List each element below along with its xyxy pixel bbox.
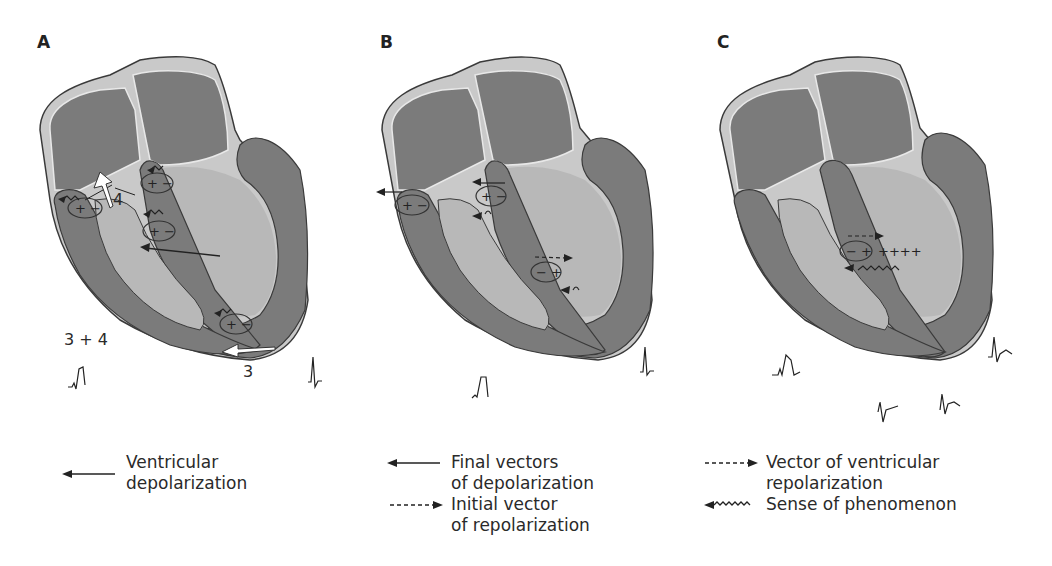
legend-item-ventricular-depolarization: Ventricular depolarization <box>60 452 247 494</box>
wavy-arrow-left-icon <box>700 494 760 515</box>
legend-text-line-2: of repolarization <box>451 515 594 536</box>
heart-diagram-c: − + ++++ <box>700 0 1052 430</box>
ecg-trace-b-right <box>640 347 654 375</box>
heart-diagram-b: + − + − − + <box>340 0 710 430</box>
legend-text-line-2: depolarization <box>126 473 247 494</box>
annotation-3: 3 <box>243 362 253 381</box>
ecg-trace-c-left <box>772 355 800 375</box>
legend-text-line-1: Ventricular <box>126 452 247 473</box>
charges-text: ++++ <box>878 244 922 259</box>
panel-b: B + − + − − + <box>340 0 710 430</box>
legend-c: Vector of ventricular repolarization Sen… <box>700 452 957 515</box>
legend-text-line-1: Sense of phenomenon <box>766 494 957 515</box>
ecg-trace-c-right <box>988 337 1012 362</box>
legend-item-final-vectors: Final vectors of depolarization <box>385 452 594 494</box>
solid-arrow-left-icon <box>60 452 120 494</box>
dashed-arrow-right-icon <box>700 452 760 473</box>
panel-c: C − + ++++ <box>700 0 1052 430</box>
annotation-3-plus-4: 3 + 4 <box>64 330 108 349</box>
ecg-trace-b-bottom <box>472 377 488 398</box>
svg-text:− +: − + <box>846 244 872 259</box>
legend-a: Ventricular depolarization <box>60 452 247 494</box>
legend-item-initial-vector: Initial vector of repolarization <box>385 494 594 536</box>
svg-text:+ −: + − <box>226 317 252 332</box>
svg-text:+ −: + − <box>481 189 507 204</box>
legend-item-vector-ventricular-repolarization: Vector of ventricular repolarization <box>700 452 957 494</box>
legend-b: Final vectors of depolarization Initial … <box>385 452 594 536</box>
heart-diagram-a: + − + − + − + − <box>0 0 350 430</box>
legend-text-line-1: Final vectors <box>451 452 594 473</box>
svg-text:+ −: + − <box>149 224 175 239</box>
legend-text-line-1: Initial vector <box>451 494 594 515</box>
legend-text-line-1: Vector of ventricular <box>766 452 957 473</box>
ecg-trace-c-bottom-left <box>878 402 898 422</box>
svg-text:+ −: + − <box>75 201 101 216</box>
svg-text:+ −: + − <box>147 176 173 191</box>
ecg-trace-a-right <box>308 357 322 387</box>
svg-text:− +: − + <box>536 265 562 280</box>
panel-a: A + − + − + − + − <box>0 0 350 430</box>
dashed-arrow-right-icon <box>385 494 445 515</box>
ecg-trace-a-left <box>68 367 85 389</box>
legend-text-line-2: repolarization <box>766 473 957 494</box>
ecg-trace-c-bottom-right <box>940 394 960 414</box>
legend-item-sense-of-phenomenon: Sense of phenomenon <box>700 494 957 515</box>
legend-text-line-2: of depolarization <box>451 473 594 494</box>
svg-text:+ −: + − <box>402 198 428 213</box>
annotation-4: 4 <box>113 190 123 209</box>
solid-arrow-left-icon <box>385 452 445 473</box>
